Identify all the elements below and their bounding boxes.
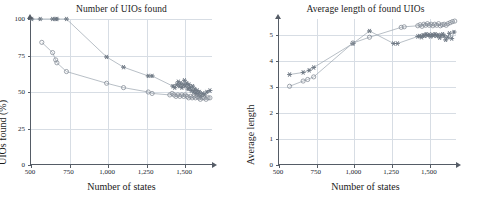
x-tick-label: 1,000 [99,168,115,176]
data-point-circle [287,84,291,88]
series-layer [279,19,457,165]
y-tick-label: 0 [252,161,273,169]
data-point-star [121,65,126,69]
x-tick-label: 500 [25,168,36,176]
data-point-star [38,17,43,21]
x-axis-label-left: Number of states [0,181,243,192]
series-line-circle-series [290,21,455,86]
x-tick-label: 500 [273,168,284,176]
x-tick-label: 1,250 [138,168,154,176]
y-tick-label: 100 [4,15,25,23]
y-axis-arrow-icon [27,14,33,19]
plot-area-left [30,19,212,165]
figure-canvas: Number of UIOs found Number of states UI… [0,0,487,209]
y-tick-label: 0 [4,161,25,169]
x-tick-label: 1,000 [346,168,362,176]
data-point-star [395,41,400,45]
x-tick-label: 750 [310,168,321,176]
y-tick-label: 25 [4,125,25,133]
y-axis-arrow-icon [275,14,281,19]
y-axis-label-left: UIOs found (%) [0,100,8,165]
x-axis-arrow-icon [212,162,217,168]
series-clip [279,19,456,164]
data-point-star [301,70,306,74]
y-tick-label: 1 [252,135,273,143]
y-tick-label: 4 [252,57,273,65]
data-point-star [452,30,457,34]
chart-panel-avg-length: Average length of found UIOs Number of s… [244,0,487,209]
x-tick-label: 1,500 [421,168,437,176]
y-tick-label: 50 [4,88,25,96]
data-point-star [447,31,452,35]
data-point-star [150,74,155,78]
x-tick-label: 750 [63,168,74,176]
data-point-star [287,72,292,76]
series-line-circle-series [42,42,210,99]
series-layer [31,19,213,165]
chart-title-left: Number of UIOs found [0,4,243,14]
chart-title-right: Average length of found UIOs [244,4,487,14]
series-clip [31,19,212,164]
y-tick-label: 2 [252,109,273,117]
x-axis-arrow-icon [456,162,461,168]
y-tick-label: 5 [252,31,273,39]
x-tick-label: 1,500 [176,168,192,176]
plot-area-right [278,19,456,165]
chart-panel-uios-found: Number of UIOs found Number of states UI… [0,0,243,209]
x-tick-label: 1,250 [383,168,399,176]
y-tick-label: 75 [4,52,25,60]
x-axis-label-right: Number of states [244,181,487,192]
y-tick-label: 3 [252,83,273,91]
